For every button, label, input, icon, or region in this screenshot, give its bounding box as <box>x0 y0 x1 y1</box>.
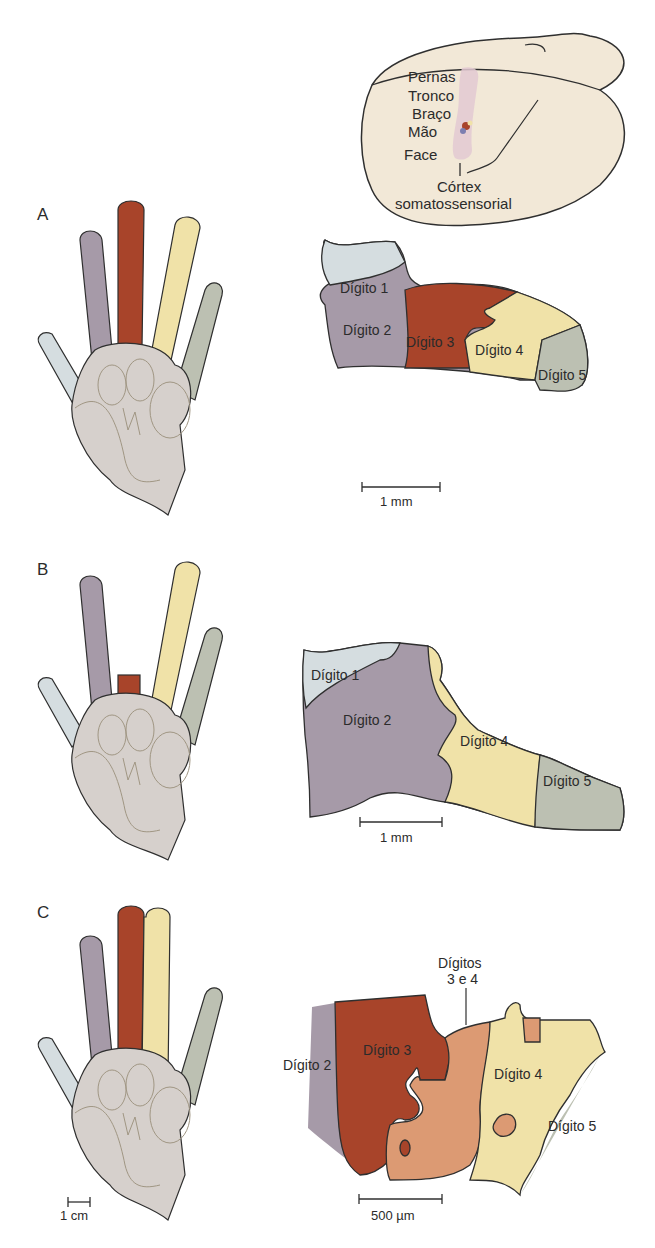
panel-b: B Dígito 1 Dígito 2 Dígito 4 Dígito <box>0 540 655 860</box>
panel-a-figure: A Dígito 1 Dígito 2 Dígito <box>0 180 655 520</box>
brain-label-hand: Mão <box>408 123 437 140</box>
hand-scale-label: 1 cm <box>60 1208 88 1223</box>
scale-label-c: 500 µm <box>371 1208 415 1223</box>
panel-b-figure: B Dígito 1 Dígito 2 Dígito 4 Dígito <box>0 540 655 860</box>
scale-bar-c <box>359 1194 442 1204</box>
scale-bar-a <box>362 482 440 492</box>
hand-scale-bar <box>68 1197 90 1207</box>
panel-c-letter: C <box>37 903 49 922</box>
callout-digits-3-4-line1: Dígitos <box>438 955 482 971</box>
map-b-label-digit5: Dígito 5 <box>543 773 591 789</box>
map-a-label-digit2: Dígito 2 <box>343 322 391 338</box>
hand-c <box>38 906 222 1220</box>
map-a-label-digit1: Dígito 1 <box>340 280 388 296</box>
map-b-label-digit4: Dígito 4 <box>460 733 508 749</box>
map-a-label-digit3: Dígito 3 <box>406 334 454 350</box>
scale-label-b: 1 mm <box>380 830 413 845</box>
scale-label-a: 1 mm <box>380 494 413 509</box>
callout-digits-3-4-line2: 3 e 4 <box>447 971 478 987</box>
map-c-label-digit3: Dígito 3 <box>363 1042 411 1058</box>
hand-a <box>38 201 222 515</box>
panel-a-letter: A <box>37 205 49 224</box>
panel-b-letter: B <box>37 560 48 579</box>
map-c-label-digit2: Dígito 2 <box>283 1057 331 1073</box>
brain-label-arm: Braço <box>412 105 451 122</box>
panel-c: C 1 cm <box>0 880 655 1248</box>
map-b-label-digit2: Dígito 2 <box>343 712 391 728</box>
map-c-label-digit4: Dígito 4 <box>494 1066 542 1082</box>
panel-a: A Dígito 1 Dígito 2 Dígito <box>0 180 655 520</box>
brain-label-trunk: Tronco <box>408 87 454 104</box>
brain-label-face: Face <box>404 146 437 163</box>
map-b-label-digit1: Dígito 1 <box>311 667 359 683</box>
map-c-label-digit5: Dígito 5 <box>548 1118 596 1134</box>
map-a-label-digit5: Dígito 5 <box>538 367 586 383</box>
scale-bar-b <box>360 817 442 827</box>
map-a-label-digit4: Dígito 4 <box>475 342 523 358</box>
hand-b <box>38 562 222 860</box>
brain-label-legs: Pernas <box>408 68 456 85</box>
map-c <box>308 995 605 1195</box>
panel-c-figure: C 1 cm <box>0 880 655 1248</box>
